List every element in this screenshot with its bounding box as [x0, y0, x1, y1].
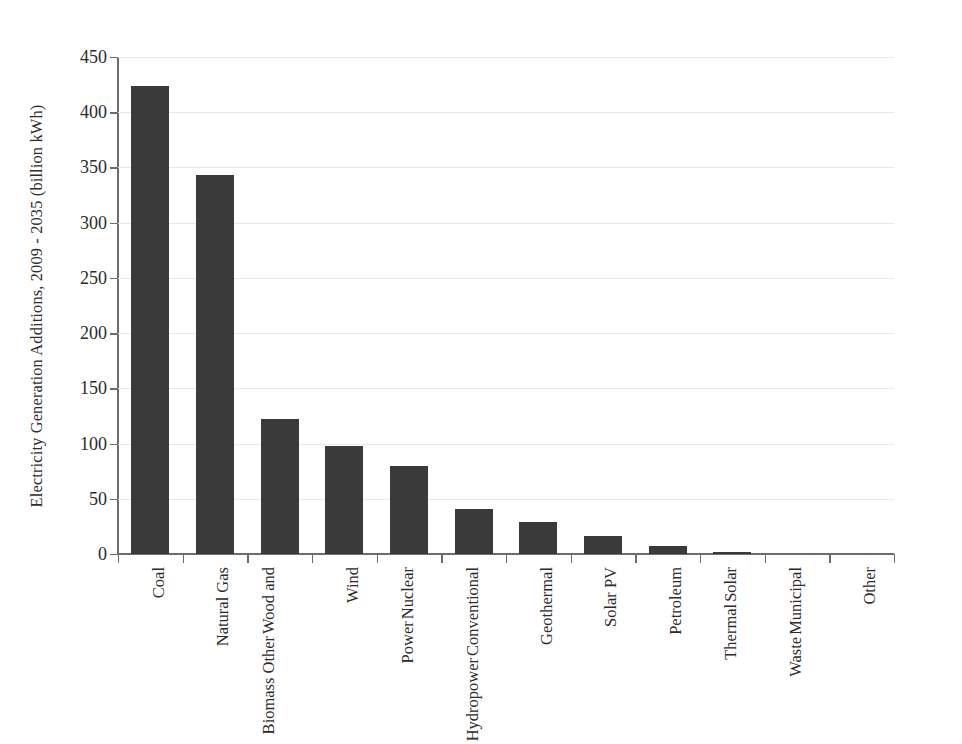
x-axis-tick-mark	[377, 554, 378, 563]
x-axis-label: ConventionalHydropower	[464, 566, 481, 744]
x-axis-label-line: Geothermal	[538, 566, 555, 646]
x-axis-label: Other	[861, 566, 878, 606]
bar-slot	[829, 57, 894, 554]
y-axis-tick-label: 100	[80, 433, 107, 454]
x-axis-label-slot: NuclearPower	[377, 566, 442, 686]
y-axis-tick-label: 150	[80, 378, 107, 399]
bar-slot	[312, 57, 377, 554]
y-axis-tick-label: 250	[80, 267, 107, 288]
y-axis-tick-label: 450	[80, 47, 107, 68]
x-axis-tick-mark	[506, 554, 507, 563]
y-axis-tick-mark	[110, 554, 118, 555]
x-axis-label: Petroleum	[667, 566, 684, 636]
bar[interactable]	[649, 546, 687, 554]
bar[interactable]	[713, 552, 751, 554]
bar[interactable]	[261, 419, 299, 554]
y-axis-tick-label: 50	[89, 488, 107, 509]
x-axis-label: Geothermal	[538, 566, 555, 646]
x-axis-label-slot: Geothermal	[506, 566, 571, 686]
x-axis-label-line: Conventional	[464, 566, 481, 657]
x-axis-label-line: Wind	[344, 566, 361, 604]
x-axis-label-slot: Solar PV	[571, 566, 636, 686]
y-axis-title: Electricity Generation Additions, 2009 -…	[27, 104, 47, 507]
bar-slot	[247, 57, 312, 554]
bar-slot	[118, 57, 183, 554]
x-axis-label-line: Petroleum	[667, 566, 684, 636]
x-axis-label-line: Municipal	[787, 566, 804, 636]
x-axis-tick-mark	[183, 554, 184, 563]
bar[interactable]	[519, 522, 557, 554]
x-axis-label-slot: MunicipalWaste	[765, 566, 830, 686]
x-axis-label-line: Other	[861, 566, 878, 606]
bar-slot	[700, 57, 765, 554]
x-axis-tick-mark	[829, 554, 830, 563]
x-axis-label-slot: Petroleum	[635, 566, 700, 686]
x-axis-label-line: Solar	[722, 566, 739, 603]
y-axis-tick-mark	[110, 57, 118, 58]
y-axis-tick-mark	[110, 333, 118, 334]
y-axis-tick-mark	[110, 112, 118, 113]
x-axis-label-line: Wood and	[260, 566, 277, 635]
x-axis-label: Natural Gas	[214, 566, 231, 647]
bar-slot	[183, 57, 248, 554]
bar[interactable]	[390, 466, 428, 554]
y-axis-tick-mark	[110, 444, 118, 445]
bar-slot	[635, 57, 700, 554]
x-axis-label-slot: Other	[829, 566, 894, 686]
x-axis-label: MunicipalWaste	[787, 566, 804, 680]
bar-slot	[506, 57, 571, 554]
y-axis-title-wrap: Electricity Generation Additions, 2009 -…	[22, 57, 52, 554]
x-axis-label-line: Solar PV	[602, 566, 619, 628]
y-axis-tick-label: 300	[80, 212, 107, 233]
x-axis-label: SolarThermal	[722, 566, 739, 663]
bar-slot	[765, 57, 830, 554]
y-axis-tick-mark	[110, 223, 118, 224]
x-axis-label: Wind	[344, 566, 361, 604]
x-axis-label-slot: Coal	[118, 566, 183, 686]
y-axis-tick-mark	[110, 278, 118, 279]
x-axis-label-slot: SolarThermal	[700, 566, 765, 686]
y-axis-tick-label: 400	[80, 102, 107, 123]
x-axis-label: Solar PV	[602, 566, 619, 628]
x-axis-label-line: Power	[399, 620, 416, 664]
x-axis-tick-mark	[312, 554, 313, 563]
x-axis-tick-mark	[571, 554, 572, 563]
x-axis-label-line: Nuclear	[399, 566, 416, 620]
x-axis-tick-mark	[635, 554, 636, 563]
bar-slot	[377, 57, 442, 554]
x-axis-tick-mark	[441, 554, 442, 563]
y-axis-tick-mark	[110, 167, 118, 168]
x-axis-label: Coal	[150, 566, 167, 599]
x-axis-label: NuclearPower	[399, 566, 416, 666]
bar-slot	[441, 57, 506, 554]
bar[interactable]	[325, 446, 363, 554]
x-axis-tick-mark	[765, 554, 766, 563]
y-axis-tick-label: 0	[98, 544, 107, 565]
bar[interactable]	[584, 536, 622, 554]
x-axis-labels-group: CoalNatural GasWood andOtherBiomassWindN…	[118, 566, 894, 686]
bar[interactable]	[131, 86, 169, 554]
x-axis-label-line: Natural Gas	[214, 566, 231, 647]
x-axis-label-slot: ConventionalHydropower	[441, 566, 506, 686]
x-axis-label-line: Coal	[150, 566, 167, 599]
y-axis-tick-mark	[110, 499, 118, 500]
bar-slot	[571, 57, 636, 554]
x-axis-label-slot: Natural Gas	[183, 566, 248, 686]
bar[interactable]	[196, 175, 234, 554]
plot-area: 450400350300250200150100500	[118, 57, 894, 554]
y-axis-tick-label: 350	[80, 157, 107, 178]
x-axis-label-line: Thermal	[722, 603, 739, 661]
x-axis-label-line: Waste	[787, 636, 804, 678]
x-axis-label-slot: Wood andOtherBiomass	[247, 566, 312, 686]
y-axis-tick-mark	[110, 388, 118, 389]
y-axis-tick-label: 200	[80, 323, 107, 344]
x-axis-label-slot: Wind	[312, 566, 377, 686]
x-axis-label-line: Other	[260, 635, 277, 675]
bars-group	[118, 57, 894, 554]
x-axis-tick-mark	[894, 554, 895, 563]
x-axis-tick-mark	[700, 554, 701, 563]
x-axis-tick-mark	[118, 554, 119, 563]
figure-caption	[0, 700, 962, 714]
bar[interactable]	[455, 509, 493, 554]
